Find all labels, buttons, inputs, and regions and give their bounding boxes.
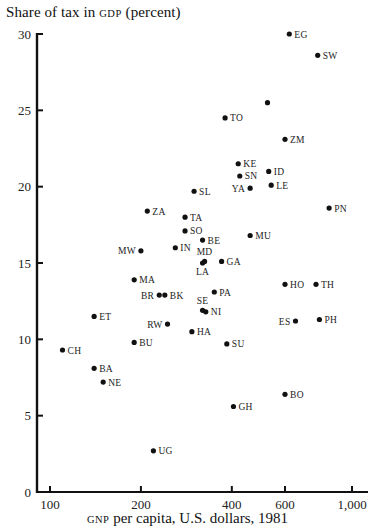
point-label: MA (139, 275, 155, 285)
point-label: RW (147, 320, 162, 330)
point-label: SE (197, 296, 209, 306)
point-marker (282, 282, 287, 287)
point-marker (132, 340, 137, 345)
point-label: EG (294, 30, 307, 40)
point-marker (182, 215, 187, 220)
point-label: GH (238, 402, 252, 412)
data-point-ba: BA (92, 364, 113, 374)
point-marker (145, 208, 150, 213)
point-label: CH (68, 346, 82, 356)
point-label: TH (321, 280, 334, 290)
point-marker (219, 259, 224, 264)
point-marker (317, 317, 322, 322)
point-marker (248, 233, 253, 238)
point-marker (224, 341, 229, 346)
point-label: GA (227, 257, 241, 267)
point-label: NE (108, 378, 121, 388)
point-marker (237, 173, 242, 178)
point-label: LA (196, 267, 209, 277)
point-marker (189, 329, 194, 334)
x-axis-title: gnp per capita, U.S. dollars, 1981 (0, 510, 375, 527)
point-marker (182, 228, 187, 233)
point-marker (162, 292, 167, 297)
data-point-bu: BU (132, 338, 153, 348)
point-marker (92, 314, 97, 319)
point-marker (200, 238, 205, 243)
point-marker (315, 53, 320, 58)
data-point-mw: MW (118, 246, 144, 256)
point-label: SO (190, 226, 203, 236)
data-point-ch: CH (60, 346, 81, 356)
x-axis-title-abbrev: gnp (87, 514, 110, 525)
point-marker (248, 186, 253, 191)
point-marker (293, 318, 298, 323)
data-point-sn: SN (237, 171, 257, 181)
data-point-br: BR (141, 291, 162, 301)
point-marker (282, 392, 287, 397)
point-marker (165, 321, 170, 326)
point-marker (236, 161, 241, 166)
y-tick-label: 0 (25, 485, 32, 500)
point-label: HA (197, 327, 211, 337)
data-point-ug: UG (151, 446, 173, 456)
scatter-plot: 0510152025301002004006001,000 EGSWTOZMKE… (0, 0, 375, 531)
point-label: SL (199, 187, 211, 197)
point-marker (151, 448, 156, 453)
point-label: BO (290, 390, 304, 400)
point-label: HO (290, 280, 304, 290)
point-label: BE (208, 236, 221, 246)
data-point-ga: GA (219, 257, 241, 267)
point-marker (92, 366, 97, 371)
y-tick-label: 30 (18, 27, 31, 42)
data-point-pa: PA (212, 288, 231, 298)
data-point-ta: TA (182, 213, 202, 223)
point-marker (266, 169, 271, 174)
data-point-ho: HO (282, 280, 304, 290)
axes: 0510152025301002004006001,000 (18, 27, 368, 513)
data-point-su: SU (224, 339, 244, 349)
data-point-sl: SL (191, 187, 210, 197)
data-point-ha: HA (189, 327, 211, 337)
point-label: YA (232, 184, 245, 194)
data-point-be: BE (200, 236, 220, 246)
point-marker (269, 183, 274, 188)
point-marker (282, 137, 287, 142)
data-point (265, 100, 270, 105)
data-point-ne: NE (101, 378, 122, 388)
y-tick-label: 20 (18, 179, 31, 194)
point-label: ES (279, 317, 291, 327)
data-point-to: TO (222, 113, 243, 123)
point-label: MU (255, 231, 271, 241)
data-point-bo: BO (282, 390, 303, 400)
point-marker (212, 289, 217, 294)
point-label: ID (274, 167, 285, 177)
data-point-eg: EG (287, 30, 308, 40)
point-marker (222, 115, 227, 120)
point-marker (132, 277, 137, 282)
point-marker (191, 189, 196, 194)
point-label: SW (323, 51, 338, 61)
point-label: NI (211, 307, 222, 317)
y-tick-label: 10 (18, 332, 31, 347)
point-label: ZA (152, 207, 165, 217)
y-tick-label: 5 (25, 408, 32, 423)
x-axis-title-suffix: per capita, U.S. dollars, 1981 (109, 510, 288, 526)
point-marker (265, 100, 270, 105)
point-label: KE (243, 159, 256, 169)
point-marker (101, 379, 106, 384)
y-tick-label: 15 (18, 256, 31, 271)
data-point-id: ID (266, 167, 284, 177)
data-point-mu: MU (248, 231, 272, 241)
data-points: EGSWTOZMKEIDSNLEYASLPNZATASOMUBEINMWMDLA… (60, 30, 347, 457)
point-label: MD (197, 247, 213, 257)
point-marker (313, 282, 318, 287)
data-point-bk: BK (162, 291, 183, 301)
point-label: TA (190, 213, 203, 223)
data-point-gh: GH (231, 402, 253, 412)
point-label: UG (158, 446, 172, 456)
data-point-sw: SW (315, 51, 337, 61)
point-label: IN (180, 243, 191, 253)
point-label: LE (276, 181, 288, 191)
point-label: BK (170, 291, 184, 301)
y-tick-label: 25 (18, 103, 31, 118)
